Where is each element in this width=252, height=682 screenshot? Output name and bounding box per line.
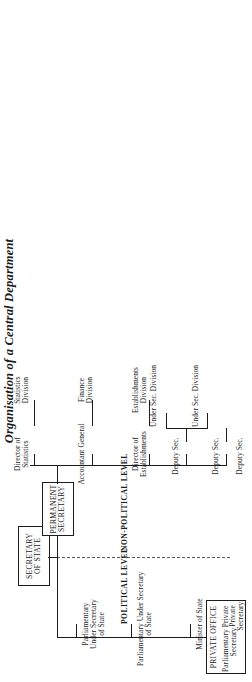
stub-deputy-sec-2 [226, 454, 227, 466]
box-private-office: PRIVATE OFFICE Parliamentary Private Sec… [206, 600, 246, 674]
political-role-parliamentary-under-secretary-2: Parliamentary Under Secretary of State [137, 582, 153, 666]
nonpolitical-role-deputy-sec-3: Deputy Sec. [236, 434, 244, 478]
stub-parl-under-sec-2 [131, 624, 132, 638]
connector-statistics-division [34, 400, 35, 426]
stub-deputy-sec-1 [186, 454, 187, 466]
branch-deputy-1-under-a [166, 413, 167, 429]
secretary-of-state-label: SECRETARY OF STATE [26, 527, 43, 585]
bus-deputy-2 [226, 428, 227, 429]
stub-parl-under-sec-1 [76, 624, 77, 638]
branch-deputy-1-under-b [207, 413, 208, 429]
nonpolitical-role-deputy-sec-2: Deputy Sec. [212, 434, 220, 478]
political-role-minister-of-state: Minister of State [196, 594, 204, 654]
nonpolitical-role-director-of-establishments: Director of Establishments [132, 426, 148, 482]
box-permanent-secretary: PERMANENT SECRETARY [42, 482, 74, 536]
private-office-heading: PRIVATE OFFICE [210, 604, 219, 670]
stub-director-establishments [149, 454, 150, 466]
nonpolitical-role-deputy-sec-1: Deputy Sec. [172, 434, 180, 478]
stub-permanent-secretary [57, 466, 58, 484]
nonpolitical-role-accountant-general: Accountant General [78, 422, 86, 486]
stub-accountant-general [92, 454, 93, 466]
spine-non-political [30, 465, 226, 466]
division-finance: Finance Division [78, 368, 94, 412]
political-level-label: POLITICAL LEVEL [120, 547, 129, 624]
division-establishments: Establishments Division [132, 364, 148, 416]
stub-director-statistics [34, 454, 35, 466]
political-role-parliamentary-under-secretary-1: Parliamentary Under Secretary of State [82, 596, 106, 652]
division-statistics: Statistics Division [14, 368, 30, 412]
permanent-secretary-label: PERMANENT SECRETARY [50, 483, 67, 535]
division-1b: Division [192, 356, 200, 400]
connector-deputy-1-bus [186, 428, 187, 442]
non-political-level-label: NON-POLITICAL LEVEL [120, 453, 129, 551]
page-title: Organisation of a Central Department [2, 0, 17, 682]
nonpolitical-role-director-of-statistics: Director of Statistics [14, 430, 30, 478]
scanned-page: Organisation of a Central Department POL… [0, 0, 252, 682]
org-chart-canvas: Organisation of a Central Department POL… [0, 0, 252, 682]
stub-minister-of-state [190, 624, 191, 638]
division-1a: Division [150, 356, 158, 400]
bus-deputy-1 [166, 428, 208, 429]
connector-deputy-2-bus [226, 428, 227, 442]
private-office-non-political-role: Private Secretary [229, 599, 245, 633]
